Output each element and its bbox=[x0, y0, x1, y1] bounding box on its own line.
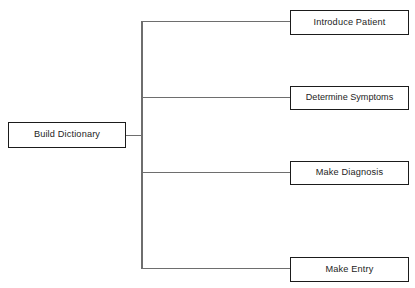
node-build-dictionary[interactable]: Build Dictionary bbox=[8, 122, 126, 148]
node-make-diagnosis[interactable]: Make Diagnosis bbox=[290, 161, 409, 185]
node-introduce-patient[interactable]: Introduce Patient bbox=[290, 10, 409, 35]
node-label: Build Dictionary bbox=[34, 130, 100, 139]
node-label: Make Entry bbox=[326, 265, 374, 274]
tree-diagram: Build Dictionary Introduce Patient Deter… bbox=[0, 0, 415, 288]
node-determine-symptoms[interactable]: Determine Symptoms bbox=[290, 86, 409, 110]
node-make-entry[interactable]: Make Entry bbox=[290, 257, 409, 282]
node-label: Introduce Patient bbox=[313, 18, 385, 27]
node-label: Determine Symptoms bbox=[306, 93, 393, 102]
node-label: Make Diagnosis bbox=[316, 168, 383, 177]
